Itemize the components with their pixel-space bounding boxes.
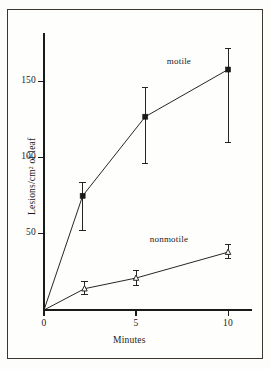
y-tick-label: 50 [14,227,36,237]
x-tick-label: 5 [121,318,151,328]
y-tick-label: 150 [14,75,36,85]
y-axis-title: Lesions/cm² of leaf [27,138,37,215]
x-tick-label: 10 [213,318,243,328]
data-point-motile [80,193,85,198]
data-point-motile [226,67,231,72]
series-label-motile: motile [167,56,191,66]
chart-plot-area [0,0,271,369]
x-tick-label: 0 [29,318,59,328]
data-point-motile [143,114,148,119]
series-label-nonmotile: nonmotile [150,234,188,244]
figure-canvas: Lesions/cm² of leaf Minutes motile nonmo… [0,0,271,369]
x-axis-title: Minutes [113,335,146,345]
y-tick-label: 100 [14,151,36,161]
data-point-nonmotile [225,249,230,254]
